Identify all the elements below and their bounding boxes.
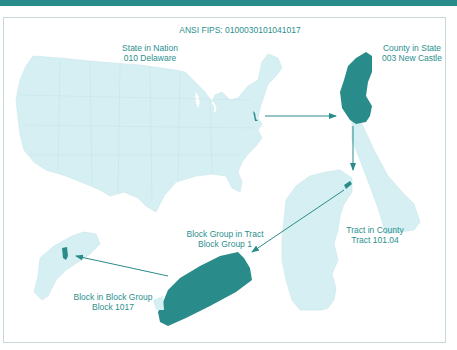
tract-level-label: Tract in County Tract 101.04 <box>330 225 420 245</box>
block-group-level-label: Block Group in Tract Block Group 1 <box>175 229 275 249</box>
block-group-level-value: Block Group 1 <box>175 239 275 249</box>
arrow-blockgroup-to-block <box>76 256 168 276</box>
state-level-title: State in Nation <box>95 43 205 53</box>
delaware-map <box>340 52 420 234</box>
block-level-title: Block in Block Group <box>58 292 168 302</box>
county-level-label: County in State 003 New Castle <box>367 43 457 63</box>
state-level-value: 010 Delaware <box>95 53 205 63</box>
block-group-level-title: Block Group in Tract <box>175 229 275 239</box>
fips-code-text: ANSI FIPS: 0100030101041017 <box>160 25 320 35</box>
block-level-label: Block in Block Group Block 1017 <box>58 292 168 312</box>
block-level-value: Block 1017 <box>58 302 168 312</box>
county-level-title: County in State <box>367 43 457 53</box>
county-level-value: 003 New Castle <box>367 53 457 63</box>
fips-code-title: ANSI FIPS: 0100030101041017 <box>160 25 320 35</box>
state-level-label: State in Nation 010 Delaware <box>95 43 205 63</box>
tract-map <box>153 252 252 326</box>
usa-map <box>16 54 282 212</box>
tract-level-title: Tract in County <box>330 225 420 235</box>
block-group-map <box>34 232 100 300</box>
tract-level-value: Tract 101.04 <box>330 235 420 245</box>
